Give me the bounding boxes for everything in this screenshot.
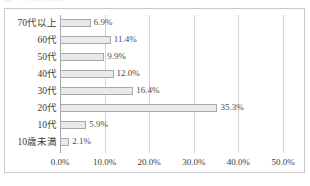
x-tick-label: 0.0% [51, 155, 70, 169]
category-label: 70代以上 [18, 15, 58, 32]
x-tick-label: 30.0% [182, 155, 205, 169]
x-tick-label: 40.0% [227, 155, 250, 169]
chart-frame: 70代以上60代50代40代30代20代10代10歳未満 6.9%11.4%9.… [4, 8, 305, 173]
category-axis-labels: 70代以上60代50代40代30代20代10代10歳未満 [5, 15, 57, 153]
bar-row[interactable]: 2.1% [60, 134, 283, 151]
category-label: 10代 [38, 117, 58, 134]
bar[interactable] [60, 70, 114, 78]
bar-value-label: 11.4% [114, 31, 137, 48]
bar-value-label: 2.1% [72, 133, 91, 150]
bar-row[interactable]: 9.9% [60, 49, 283, 66]
clipped-header-text: 図 年代別構成比 ・・・・ [4, 0, 101, 2]
category-label: 50代 [38, 49, 58, 66]
bar-value-label: 5.9% [89, 116, 108, 133]
bar-value-label: 9.9% [107, 48, 126, 65]
bar[interactable] [60, 104, 217, 112]
bar-row[interactable]: 35.3% [60, 100, 283, 117]
bar-value-label: 12.0% [117, 65, 140, 82]
bar-value-label: 35.3% [220, 99, 243, 116]
clipped-header-strip: 図 年代別構成比 ・・・・ [0, 0, 310, 8]
bar-value-label: 16.4% [136, 82, 159, 99]
bar[interactable] [60, 36, 111, 44]
bar[interactable] [60, 138, 69, 146]
bar-row[interactable]: 12.0% [60, 66, 283, 83]
category-label: 20代 [38, 100, 58, 117]
bar[interactable] [60, 53, 104, 61]
x-tick-label: 50.0% [271, 155, 294, 169]
category-label: 40代 [38, 66, 58, 83]
bar-row[interactable]: 5.9% [60, 117, 283, 134]
bar-row[interactable]: 6.9% [60, 15, 283, 32]
bar-row[interactable]: 11.4% [60, 32, 283, 49]
bar[interactable] [60, 121, 86, 129]
plot-area: 6.9%11.4%9.9%12.0%16.4%35.3%5.9%2.1% [60, 15, 283, 153]
category-label: 60代 [38, 32, 58, 49]
category-label: 10歳未満 [18, 134, 58, 151]
value-axis-tick-labels: 0.0%10.0%20.0%30.0%40.0%50.0% [60, 155, 283, 171]
x-tick-label: 10.0% [93, 155, 116, 169]
x-tick-label: 20.0% [138, 155, 161, 169]
category-label: 30代 [38, 83, 58, 100]
bar-value-label: 6.9% [94, 14, 113, 31]
bar[interactable] [60, 87, 133, 95]
gridline-50.0% [283, 15, 284, 153]
bar[interactable] [60, 19, 91, 27]
bar-row[interactable]: 16.4% [60, 83, 283, 100]
